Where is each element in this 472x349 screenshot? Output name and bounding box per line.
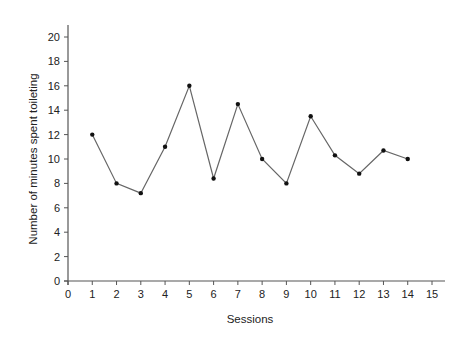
- y-tick-label: 6: [54, 202, 60, 214]
- x-tick-label: 6: [211, 288, 217, 300]
- y-tick-label: 16: [48, 80, 60, 92]
- x-tick-label: 5: [186, 288, 192, 300]
- data-point-marker: [139, 191, 143, 195]
- line-chart: 02468101214161820 0123456789101112131415…: [0, 0, 472, 349]
- x-tick-label: 10: [305, 288, 317, 300]
- y-tick-label: 14: [48, 104, 60, 116]
- data-point-marker: [114, 181, 118, 185]
- x-axis-title: Sessions: [227, 313, 274, 325]
- x-tick-label: 4: [162, 288, 168, 300]
- y-tick-label: 0: [54, 275, 60, 287]
- data-point-marker: [236, 102, 240, 106]
- x-tick-label: 1: [89, 288, 95, 300]
- x-tick-label: 2: [113, 288, 119, 300]
- data-point-marker: [260, 157, 264, 161]
- y-tick-label: 10: [48, 153, 60, 165]
- y-tick-label: 4: [54, 226, 60, 238]
- x-axis: 0123456789101112131415: [64, 281, 445, 300]
- data-point-marker: [211, 176, 215, 180]
- y-tick-label: 2: [54, 251, 60, 263]
- y-tick-label: 20: [48, 31, 60, 43]
- data-series: [90, 84, 410, 196]
- x-tick-label: 13: [377, 288, 389, 300]
- y-axis-title: Number of minutes spent toileting: [27, 73, 39, 244]
- data-point-marker: [333, 153, 337, 157]
- y-tick-label: 12: [48, 129, 60, 141]
- x-tick-label: 9: [283, 288, 289, 300]
- y-tick-label: 8: [54, 177, 60, 189]
- x-tick-label: 8: [259, 288, 265, 300]
- data-point-marker: [357, 171, 361, 175]
- data-point-marker: [381, 148, 385, 152]
- data-point-marker: [187, 84, 191, 88]
- x-tick-label: 14: [402, 288, 414, 300]
- y-axis: 02468101214161820: [48, 25, 68, 287]
- x-tick-label: 12: [353, 288, 365, 300]
- data-point-marker: [163, 145, 167, 149]
- x-tick-label: 11: [329, 288, 340, 300]
- data-point-marker: [308, 114, 312, 118]
- data-point-marker: [90, 132, 94, 136]
- x-tick-label: 15: [426, 288, 438, 300]
- x-tick-label: 3: [138, 288, 144, 300]
- x-tick-label: 7: [235, 288, 241, 300]
- series-line: [92, 86, 407, 193]
- y-tick-label: 18: [48, 55, 60, 67]
- data-point-marker: [406, 157, 410, 161]
- data-point-marker: [284, 181, 288, 185]
- x-tick-label: 0: [65, 288, 71, 300]
